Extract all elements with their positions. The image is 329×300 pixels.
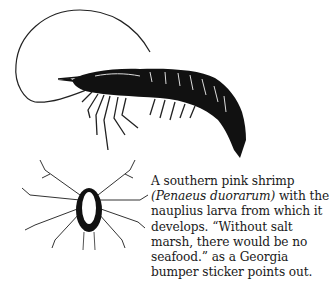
- caption-line: nauplius larva from which it: [151, 204, 329, 219]
- caption-line: (Penaeus duorarum) with the: [151, 189, 329, 204]
- caption-line: develops. “Without salt: [151, 220, 329, 235]
- caption-line: bumper sticker points out.: [151, 265, 329, 280]
- caption-line: marsh, there would be no: [151, 235, 329, 250]
- species-name: (Penaeus duorarum): [151, 189, 275, 203]
- caption-line: A southern pink shrimp: [151, 174, 329, 189]
- caption-line: seafood.” as a Georgia: [151, 250, 329, 265]
- caption-text: with the: [275, 189, 329, 203]
- figure-caption: A southern pink shrimp (Penaeus duorarum…: [151, 174, 329, 280]
